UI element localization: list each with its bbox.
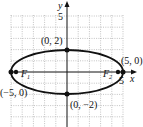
point-left-vertex — [9, 70, 14, 75]
right-vertex-label: (5, 0) — [121, 55, 143, 67]
x-tick-label: 5 — [119, 75, 124, 86]
point-right-vertex — [121, 70, 126, 75]
top-vertex-label: (0, 2) — [41, 35, 63, 47]
f1-label: F1 — [20, 68, 30, 80]
focus-f1 — [14, 70, 18, 74]
bottom-vertex-label: (0, −2) — [70, 99, 97, 111]
y-tick-label: 5 — [58, 11, 63, 22]
y-axis-label: y — [57, 0, 63, 11]
ellipse-chart: y 5 x 5 (0, 2) (0, −2) (5, 0) (−5, 0) F1… — [0, 0, 143, 127]
y-axis-arrow-icon — [65, 1, 70, 7]
point-bottom-vertex — [65, 92, 70, 97]
focus-f2 — [116, 70, 120, 74]
x-axis-label: x — [129, 73, 135, 84]
f2-label: F2 — [102, 68, 112, 80]
point-top-vertex — [65, 48, 70, 53]
left-vertex-label: (−5, 0) — [0, 87, 27, 99]
